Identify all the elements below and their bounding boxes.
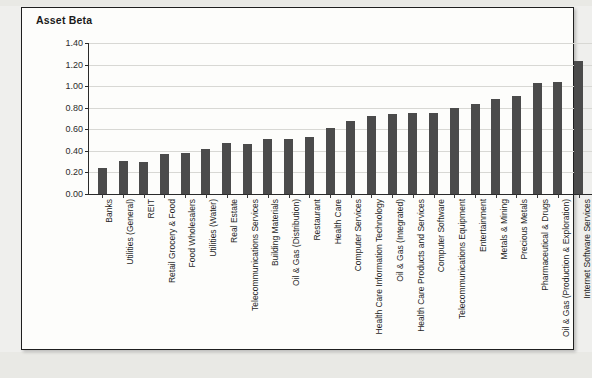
bar-slot (237, 43, 258, 194)
y-axis-tick-label: 0.20 (65, 167, 83, 177)
bar-slot (568, 43, 589, 194)
x-axis-tick-mark (516, 194, 517, 198)
x-axis-label-slot: Health Care Information Technology (361, 199, 382, 349)
x-axis-label-slot: Health Care Products and Services (402, 199, 423, 349)
x-axis-label-slot: Telecommunications Services (236, 199, 257, 349)
y-axis-tick-label: 0.60 (65, 124, 83, 134)
x-axis-label-slot: Pharmaceutical & Drugs (527, 199, 548, 349)
x-axis-label-slot: Oil & Gas (Integrated) (382, 199, 403, 349)
x-axis-tick-mark (206, 194, 207, 198)
x-axis-tick-mark (247, 194, 248, 198)
x-axis-tick-mark (227, 194, 228, 198)
bar (408, 113, 417, 194)
scan-artifact-top (0, 0, 592, 6)
x-axis-label-slot: Food Wholesalers (174, 199, 195, 349)
scan-artifact-bottom (0, 352, 592, 378)
bar (429, 113, 438, 194)
bar (201, 149, 210, 194)
x-axis-tick-mark (351, 194, 352, 198)
bar (533, 83, 542, 194)
x-axis-labels: BanksUtilities (General)REITRetail Groce… (88, 199, 592, 349)
bar (326, 128, 335, 194)
x-axis-tick-mark (309, 194, 310, 198)
x-axis-tick-mark (185, 194, 186, 198)
x-axis-tick-mark (102, 194, 103, 198)
x-axis-tick-mark (475, 194, 476, 198)
bar-slot (278, 43, 299, 194)
bar-slot (320, 43, 341, 194)
y-axis-tick-label: 1.20 (65, 60, 83, 70)
x-axis-label: Internet Software Services (583, 199, 592, 299)
x-axis-tick-mark (537, 194, 538, 198)
bar-slot (506, 43, 527, 194)
bar (450, 108, 459, 194)
x-axis-label-slot: Computer Services (340, 199, 361, 349)
x-axis-tick-mark (164, 194, 165, 198)
bar-slot (423, 43, 444, 194)
x-axis-label-slot: Retail Grocery & Food (153, 199, 174, 349)
x-axis-tick-mark (371, 194, 372, 198)
bar (305, 137, 314, 194)
bar (263, 139, 272, 194)
y-axis-tick-label: 0.00 (65, 189, 83, 199)
x-axis-tick-mark (144, 194, 145, 198)
bar (284, 139, 293, 194)
x-axis-label-slot: Oil & Gas (Production & Exploration) (548, 199, 569, 349)
y-axis-tick-label: 1.40 (65, 38, 83, 48)
bar (98, 168, 107, 194)
x-axis-label-slot: Building Materials (257, 199, 278, 349)
bar-slot (175, 43, 196, 194)
bar-slot (485, 43, 506, 194)
x-axis-tick-mark (123, 194, 124, 198)
chart-title: Asset Beta (36, 14, 92, 26)
x-axis-label-slot: Entertainment (465, 199, 486, 349)
bar-slot (133, 43, 154, 194)
bar-slot (361, 43, 382, 194)
x-axis-label-slot: REIT (133, 199, 154, 349)
bar-slot (299, 43, 320, 194)
bar-slot (154, 43, 175, 194)
bar-slot (444, 43, 465, 194)
bar (471, 104, 480, 194)
bar (119, 161, 128, 194)
x-axis-tick-mark (268, 194, 269, 198)
bar-slot (92, 43, 113, 194)
bar (553, 82, 562, 194)
x-axis-tick-mark (558, 194, 559, 198)
x-axis-tick-mark (579, 194, 580, 198)
x-axis-label-slot: Computer Software (423, 199, 444, 349)
bar (243, 144, 252, 194)
x-axis-label-slot: Oil & Gas (Distribution) (278, 199, 299, 349)
x-axis-label-slot: Telecommunications Equipment (444, 199, 465, 349)
x-axis-label-slot: Internet Software Services (568, 199, 589, 349)
x-axis-label-slot: Precious Metals (506, 199, 527, 349)
x-axis-label-slot: Real Estate (216, 199, 237, 349)
y-axis-tick-label: 1.00 (65, 81, 83, 91)
bar (160, 154, 169, 194)
y-axis-tick-label: 0.80 (65, 103, 83, 113)
y-axis-tick-label: 0.40 (65, 146, 83, 156)
bar (222, 143, 231, 194)
bar (346, 121, 355, 194)
bar (367, 116, 376, 194)
plot-area: 1.401.201.000.800.600.400.200.00 (88, 43, 592, 194)
x-axis-tick-mark (392, 194, 393, 198)
bar (139, 162, 148, 194)
x-axis-label-slot: Restaurant (299, 199, 320, 349)
x-axis-tick-mark (454, 194, 455, 198)
bar-slot (547, 43, 568, 194)
x-axis-tick-mark (434, 194, 435, 198)
bar (181, 153, 190, 194)
x-axis-label-slot: Utilities (General) (112, 199, 133, 349)
bar-slot (113, 43, 134, 194)
x-axis-tick-mark (289, 194, 290, 198)
bar-slot (258, 43, 279, 194)
page-background: Asset Beta 1.401.201.000.800.600.400.200… (0, 0, 592, 378)
bar-slot (465, 43, 486, 194)
bar (388, 114, 397, 194)
bar-slot (527, 43, 548, 194)
x-axis-tick-mark (413, 194, 414, 198)
bar-slot (340, 43, 361, 194)
x-axis-label-slot: Health Care (319, 199, 340, 349)
x-axis-tick-mark (496, 194, 497, 198)
